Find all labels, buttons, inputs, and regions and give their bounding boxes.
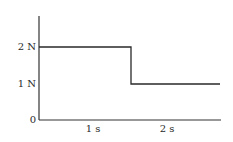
x-tick-label-2s: 2 s	[152, 124, 182, 134]
y-tick-label-0: 0	[6, 115, 36, 125]
x-tick-label-1s: 1 s	[78, 124, 108, 134]
y-tick-label-1n: 1 N	[6, 79, 36, 89]
force-time-chart: 2 N 1 N 0 1 s 2 s	[0, 0, 233, 142]
force-step-line	[39, 47, 220, 84]
y-tick-label-2n: 2 N	[6, 42, 36, 52]
